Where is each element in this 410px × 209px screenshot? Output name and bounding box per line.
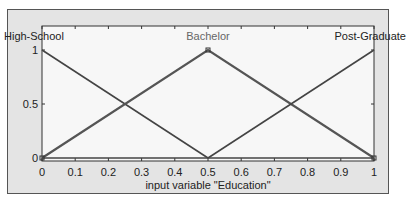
x-tick-label: 0.7	[267, 166, 282, 178]
x-tick-label: 0.9	[333, 166, 348, 178]
x-tick-label: 0.2	[101, 166, 116, 178]
y-tick-label: 0.5	[23, 98, 38, 110]
series-label-high-school[interactable]: High-School	[4, 30, 64, 42]
plot-area[interactable]	[42, 26, 374, 161]
series-label-post-graduate[interactable]: Post-Graduate	[334, 30, 406, 42]
series-label-bachelor[interactable]: Bachelor	[186, 30, 230, 42]
x-axis-label: input variable "Education"	[145, 179, 270, 191]
y-tick-label: 0	[32, 152, 38, 164]
x-tick-label: 0.5	[200, 166, 215, 178]
x-tick-label: 0.8	[300, 166, 315, 178]
x-tick-label: 1	[371, 166, 377, 178]
x-tick-label: 0	[39, 166, 45, 178]
x-tick-label: 0.4	[167, 166, 182, 178]
membership-function-chart: 00.10.20.30.40.50.60.70.80.91 00.51 High…	[0, 0, 410, 209]
x-tick-label: 0.6	[234, 166, 249, 178]
x-tick-label: 0.1	[68, 166, 83, 178]
x-tick-label: 0.3	[134, 166, 149, 178]
y-tick-label: 1	[32, 44, 38, 56]
